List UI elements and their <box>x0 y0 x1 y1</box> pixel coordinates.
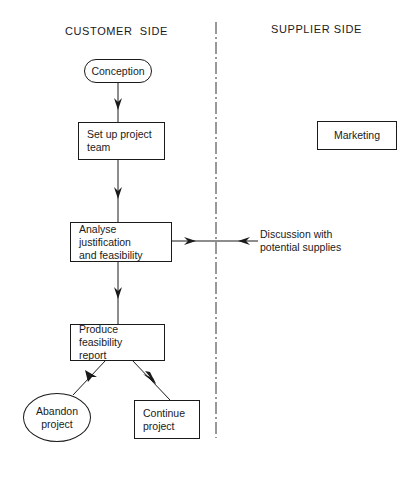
node-label-line2: project <box>41 418 73 431</box>
node-marketing: Marketing <box>317 121 397 150</box>
node-conception: Conception <box>84 59 152 83</box>
node-label-line1: Abandon <box>36 405 78 418</box>
node-label-line1: Analyse justification <box>79 223 163 249</box>
node-label-line2: project <box>143 420 191 433</box>
node-abandon: Abandon project <box>23 393 91 442</box>
supplier-side-heading: SUPPLIER SIDE <box>271 23 362 35</box>
node-analyse: Analyse justification and feasibility <box>70 222 172 262</box>
node-label-line2: report <box>79 349 156 362</box>
node-label-line1: Continue <box>143 407 191 420</box>
node-discussion: Discussion with potential supplies <box>260 228 341 254</box>
node-label-line2: potential supplies <box>260 241 341 254</box>
node-produce-report: Produce feasibility report <box>70 324 165 361</box>
node-label-line2: team <box>87 141 156 154</box>
node-label-line2: and feasibility <box>79 249 163 262</box>
node-label-line1: Produce feasibility <box>79 323 156 349</box>
node-label: Conception <box>91 65 144 78</box>
node-label-line1: Discussion with <box>260 228 341 241</box>
node-continue: Continue project <box>134 400 200 439</box>
node-label-line1: Set up project <box>87 128 156 141</box>
node-setup-team: Set up project team <box>78 122 165 160</box>
node-label: Marketing <box>334 129 380 142</box>
customer-side-heading: CUSTOMER SIDE <box>65 25 168 37</box>
